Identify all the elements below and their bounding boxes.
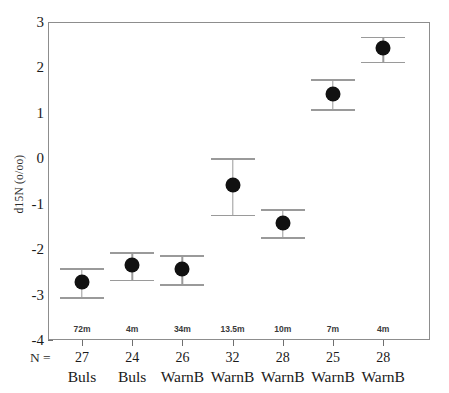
depth-label: 72m (73, 324, 90, 334)
depth-label: 10m (274, 324, 291, 334)
n-value: 25 (326, 350, 340, 366)
errorbar-cap-upper (361, 37, 405, 39)
errorbar-cap-upper (261, 209, 305, 211)
depth-label: 34m (174, 324, 191, 334)
errorbar-cap-lower (110, 280, 154, 282)
group-label: Buls (118, 368, 146, 386)
y-tick-label: 1 (10, 105, 44, 120)
data-point-marker (326, 86, 341, 101)
group-label: WarnB (261, 368, 305, 386)
data-point-marker (275, 216, 290, 231)
y-tick-label: -4 (10, 333, 44, 348)
x-tick-mark (82, 340, 83, 346)
errorbar-cap-lower (361, 62, 405, 64)
x-tick-mark (283, 340, 284, 346)
y-axis-title: d15N (o/oo) (13, 119, 25, 249)
errorbar-cap-upper (311, 79, 355, 81)
errorbar-cap-upper (110, 252, 154, 254)
data-point-marker (75, 274, 90, 289)
n-value: 28 (376, 350, 390, 366)
errorbar-cap-lower (261, 237, 305, 239)
n-value: 24 (125, 350, 139, 366)
x-tick-mark (233, 340, 234, 346)
n-value: 28 (276, 350, 290, 366)
group-label: Buls (68, 368, 96, 386)
depth-label: 13.5m (221, 324, 245, 334)
y-tick-label: 0 (10, 151, 44, 166)
x-tick-mark (132, 340, 133, 346)
n-equals-label: N = (30, 350, 51, 366)
depth-label: 4m (377, 324, 389, 334)
group-label: WarnB (361, 368, 405, 386)
errorbar-cap-lower (311, 109, 355, 111)
errorbar-cap-upper (211, 158, 255, 160)
errorbar-cap-lower (160, 284, 204, 286)
figure-canvas: d15N (o/oo) 3210-1-2-3-4 72m4m34m13.5m10… (0, 0, 449, 393)
group-label: WarnB (161, 368, 205, 386)
n-value: 32 (226, 350, 240, 366)
errorbar-cap-lower (60, 297, 104, 299)
n-value: 26 (175, 350, 189, 366)
y-tick-label: -2 (10, 242, 44, 257)
x-tick-mark (383, 340, 384, 346)
errorbar-cap-lower (211, 215, 255, 217)
group-label: WarnB (211, 368, 255, 386)
depth-label: 4m (126, 324, 138, 334)
y-tick-label: -1 (10, 196, 44, 211)
y-tick-label: 2 (10, 60, 44, 75)
n-value: 27 (75, 350, 89, 366)
data-point-marker (376, 40, 391, 55)
group-label: WarnB (311, 368, 355, 386)
y-tick-label: 3 (10, 15, 44, 30)
x-tick-mark (333, 340, 334, 346)
y-tick-label: -3 (10, 287, 44, 302)
y-tick-mark (48, 340, 53, 341)
errorbar-cap-upper (160, 255, 204, 257)
data-point-marker (175, 261, 190, 276)
data-point-marker (125, 258, 140, 273)
data-point-marker (225, 177, 240, 192)
errorbar-cap-upper (60, 268, 104, 270)
x-tick-mark (182, 340, 183, 346)
depth-label: 7m (327, 324, 339, 334)
